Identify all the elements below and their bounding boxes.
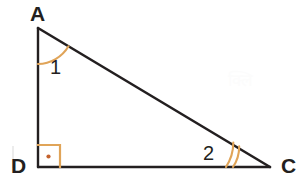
watermark-text: क्लि xyxy=(228,68,254,91)
geometry-figure: A D C 1 2 क्लि xyxy=(0,0,305,185)
side-AC xyxy=(38,28,270,167)
vertex-label-D: D xyxy=(11,155,26,176)
angle-label-1: 1 xyxy=(50,57,61,77)
vertex-label-A: A xyxy=(30,3,45,24)
angle-label-2: 2 xyxy=(203,143,214,163)
triangle-sides xyxy=(38,28,270,167)
triangle-drawing xyxy=(0,0,305,185)
right-angle-mark-D xyxy=(38,145,60,167)
vertex-label-C: C xyxy=(281,155,296,176)
